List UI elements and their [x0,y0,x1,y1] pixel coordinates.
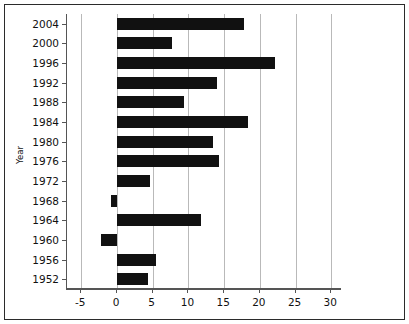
y-tick-label: 1964 [0,215,59,225]
y-tick-label: 2004 [0,19,59,29]
y-tick-mark [62,260,66,261]
y-tick-mark [62,83,66,84]
y-tick-mark [62,43,66,44]
y-tick-label: 1976 [0,156,59,166]
x-tick-label: 10 [167,296,207,308]
bar [117,273,148,285]
x-axis-line [66,289,341,290]
x-tick-label: 30 [310,296,350,308]
bar [117,214,201,226]
y-tick-label: 1984 [0,117,59,127]
bar [117,254,156,266]
x-tick-label: 25 [275,296,315,308]
bar [117,155,219,167]
bar [117,136,213,148]
y-tick-label: 2000 [0,38,59,48]
y-tick-label: 1996 [0,58,59,68]
y-tick-mark [62,24,66,25]
x-gridline [331,14,332,288]
y-tick-label: 1960 [0,235,59,245]
y-tick-label: 1972 [0,176,59,186]
y-tick-mark [62,279,66,280]
y-tick-mark [62,63,66,64]
x-tick-label: 15 [203,296,243,308]
x-tick-label: 5 [132,296,172,308]
x-gridline [188,14,189,288]
x-gridline [224,14,225,288]
chart-root: Year 19521956196019641968197219761980198… [0,0,409,324]
y-tick-mark [62,240,66,241]
y-tick-mark [62,142,66,143]
bar [117,18,244,30]
x-tick-label: -5 [60,296,100,308]
x-gridline [153,14,154,288]
y-tick-label: 1952 [0,274,59,284]
y-tick-label: 1988 [0,97,59,107]
bar [101,234,117,246]
x-tick-label: 0 [96,296,136,308]
bar [117,116,248,128]
plot-area [66,14,341,289]
y-tick-mark [62,181,66,182]
x-tick-label: 20 [239,296,279,308]
y-tick-mark [62,220,66,221]
x-gridline [81,14,82,288]
bar [117,37,172,49]
y-tick-mark [62,102,66,103]
x-gridline [260,14,261,288]
y-tick-mark [62,122,66,123]
bar [117,77,217,89]
y-tick-mark [62,161,66,162]
y-tick-label: 1980 [0,137,59,147]
y-tick-label: 1992 [0,78,59,88]
bar [117,175,150,187]
y-tick-label: 1968 [0,196,59,206]
bar [111,195,117,207]
bar [117,57,275,69]
x-gridline [117,14,118,288]
y-tick-label: 1956 [0,255,59,265]
y-tick-mark [62,201,66,202]
bar [117,96,184,108]
x-gridline [296,14,297,288]
